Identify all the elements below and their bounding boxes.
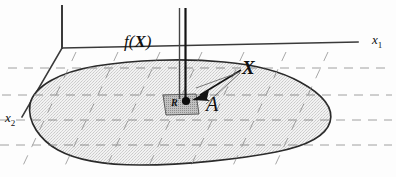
point-label-X: X	[242, 58, 255, 77]
axis-label-x1-sub: 1	[378, 40, 383, 50]
function-label-prefix: f(	[124, 32, 134, 51]
region-R-patch	[163, 94, 199, 115]
function-label: f(X)	[124, 33, 151, 50]
area-label-A: A	[206, 94, 218, 114]
function-label-suffix: )	[146, 32, 152, 51]
axis-label-x2-sub: 2	[11, 118, 16, 128]
point-marker-dot	[182, 97, 190, 105]
figure-canvas: f(X) X A R x1 x2	[0, 0, 396, 177]
axis-label-x2: x2	[5, 111, 15, 128]
diagram-svg	[0, 0, 396, 177]
x1-axis	[62, 42, 358, 48]
function-label-arg: X	[134, 32, 145, 51]
region-label-R: R	[171, 98, 178, 108]
axis-label-x1: x1	[372, 33, 382, 50]
